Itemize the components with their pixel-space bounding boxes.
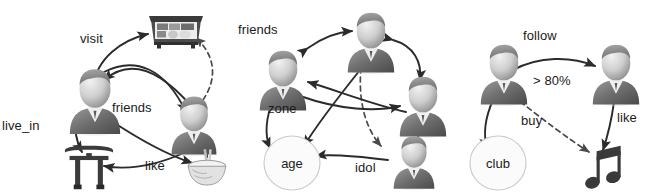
edge-label-follow: follow — [523, 28, 557, 43]
edge-sushi-dashed — [196, 38, 213, 100]
edge-label-buy: buy — [521, 113, 543, 128]
sushi-box-icon[interactable] — [149, 16, 203, 49]
left-graph-canvas: visit friends live_in like — [0, 0, 230, 193]
edge-m2-m4-dashed — [360, 68, 381, 146]
node-label-club: club — [486, 156, 510, 171]
panel-right-graph: club follow > 80% buy like — [455, 0, 657, 193]
edge-follow — [513, 59, 595, 70]
panel-middle-graph: age friends zone idol — [230, 0, 455, 193]
attribute-node-age[interactable]: age — [264, 136, 320, 190]
edge-label-zone: zone — [268, 101, 297, 116]
edge-label-friends: friends — [112, 100, 152, 115]
figure-root: visit friends live_in like — [0, 0, 657, 193]
person-avatar-icon[interactable] — [593, 45, 639, 107]
edge-m4-age — [316, 155, 388, 160]
middle-graph-canvas: age friends zone idol — [230, 0, 455, 193]
person-avatar-icon[interactable] — [172, 97, 217, 157]
edge-label-live-in: live_in — [2, 118, 40, 133]
edge-friends — [308, 31, 352, 48]
panel-left-graph: visit friends live_in like — [0, 0, 230, 193]
person-avatar-icon[interactable] — [481, 45, 527, 107]
person-avatar-icon[interactable] — [400, 77, 446, 139]
edge-label-like: like — [145, 158, 165, 173]
edge-label-visit: visit — [80, 31, 103, 46]
edge-label-threshold: > 80% — [533, 73, 571, 88]
edge-label-friends: friends — [238, 22, 278, 37]
attribute-node-club[interactable]: club — [470, 136, 526, 190]
edge-m2-m3 — [393, 40, 420, 80]
edge-like — [603, 102, 614, 150]
torii-gate-icon[interactable] — [65, 146, 113, 190]
person-avatar-icon[interactable] — [394, 136, 435, 190]
node-label-age: age — [281, 156, 303, 171]
right-graph-canvas: club follow > 80% buy like — [455, 0, 657, 193]
person-avatar-icon[interactable] — [348, 13, 394, 75]
edge-label-like: like — [617, 110, 637, 125]
node-label-idol: idol — [355, 160, 376, 175]
